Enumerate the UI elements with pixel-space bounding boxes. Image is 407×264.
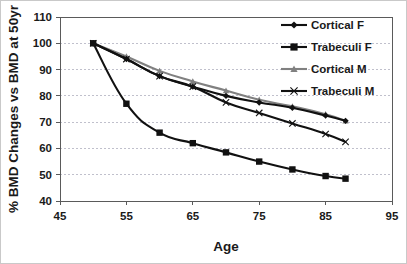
y-tick-label-70: 70 <box>39 116 52 128</box>
y-tick-label-90: 90 <box>39 64 52 76</box>
data-point-square <box>322 173 328 179</box>
x-tick-label-45: 45 <box>54 210 67 222</box>
y-tick-label-50: 50 <box>39 169 52 181</box>
bmd-line-chart: 405060708090100110 455565758595 Cortical… <box>1 1 406 263</box>
data-point-square <box>223 149 229 155</box>
x-axis-title: Age <box>213 239 239 254</box>
chart-figure: 405060708090100110 455565758595 Cortical… <box>0 0 407 264</box>
legend-label: Trabeculi M <box>311 85 374 97</box>
legend-marker-square-icon <box>290 43 297 50</box>
data-point-square <box>90 40 96 46</box>
data-point-square <box>123 101 129 107</box>
data-point-square <box>190 140 196 146</box>
legend-label: Trabeculi F <box>311 41 372 53</box>
x-tick-label-55: 55 <box>120 210 133 222</box>
x-tick-label-85: 85 <box>319 210 332 222</box>
legend-label: Cortical F <box>311 19 364 31</box>
data-point-square <box>342 175 348 181</box>
x-tick-label-65: 65 <box>186 210 199 222</box>
data-point-square <box>156 129 162 135</box>
legend-label: Cortical M <box>311 63 367 75</box>
y-tick-label-100: 100 <box>33 37 52 49</box>
y-tick-label-80: 80 <box>39 90 52 102</box>
x-tick-label-75: 75 <box>253 210 266 222</box>
data-point-square <box>256 158 262 164</box>
y-tick-label-110: 110 <box>33 11 52 23</box>
data-point-square <box>289 166 295 172</box>
y-tick-label-40: 40 <box>39 195 52 207</box>
x-tick-label-95: 95 <box>386 210 399 222</box>
y-axis-title: % BMD Changes vs BMD at 50yr <box>6 4 21 213</box>
y-tick-label-60: 60 <box>39 142 52 154</box>
